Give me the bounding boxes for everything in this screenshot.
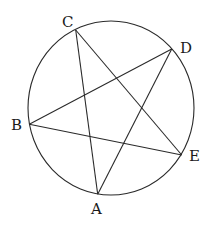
label-A: A bbox=[90, 200, 102, 218]
segment-CE bbox=[76, 30, 182, 155]
label-E: E bbox=[189, 147, 200, 165]
segment-DB bbox=[29, 49, 171, 124]
label-D: D bbox=[180, 39, 192, 57]
segment-CA bbox=[76, 30, 98, 194]
segment-DA bbox=[98, 49, 172, 194]
pentagram-diagram: A B C D E bbox=[0, 0, 212, 227]
diagram-canvas: A B C D E bbox=[0, 0, 212, 227]
vertex-labels: A B C D E bbox=[11, 13, 200, 218]
segment-BE bbox=[29, 124, 181, 155]
label-C: C bbox=[62, 13, 73, 31]
label-B: B bbox=[11, 116, 22, 134]
